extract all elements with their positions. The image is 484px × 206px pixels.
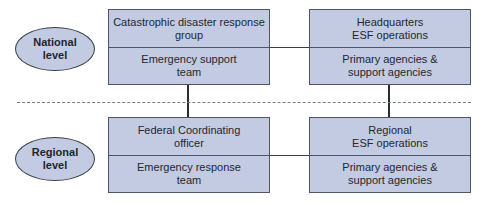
right-vertical-connector bbox=[388, 84, 390, 118]
regional-horizontal-connector bbox=[270, 155, 310, 156]
left-vertical-connector bbox=[187, 84, 189, 118]
hq-esf-line1: Headquarters bbox=[352, 16, 428, 29]
national-primary-support-agencies: Primary agencies & support agencies bbox=[310, 48, 470, 84]
regional-right-box: Regional ESF operations Primary agencies… bbox=[309, 117, 471, 193]
level-divider-dashed-line bbox=[17, 102, 471, 103]
national-right-box: Headquarters ESF operations Primary agen… bbox=[309, 9, 471, 85]
catastrophic-disaster-response-group: Catastrophic disaster response group bbox=[109, 10, 269, 48]
national-left-box: Catastrophic disaster response group Eme… bbox=[108, 9, 270, 85]
national-level-ellipse: National level bbox=[15, 27, 95, 71]
regional-level-ellipse: Regional level bbox=[15, 137, 95, 181]
national-level-label-line2: level bbox=[33, 49, 76, 62]
federal-coordinating-officer: Federal Coordinating officer bbox=[109, 118, 269, 156]
regional-level-label-line1: Regional bbox=[32, 146, 78, 159]
national-level-label-line1: National bbox=[33, 36, 76, 49]
regional-primary-support-agencies: Primary agencies & support agencies bbox=[310, 156, 470, 192]
regional-esf-line1: Regional bbox=[352, 124, 428, 137]
regional-left-box: Federal Coordinating officer Emergency r… bbox=[108, 117, 270, 193]
national-horizontal-connector bbox=[270, 47, 310, 48]
regional-esf-line2: ESF operations bbox=[352, 137, 428, 150]
regional-level-label-line2: level bbox=[32, 159, 78, 172]
emergency-support-team: Emergency support team bbox=[109, 48, 269, 84]
emergency-response-team: Emergency response team bbox=[109, 156, 269, 192]
regional-esf-operations: Regional ESF operations bbox=[310, 118, 470, 156]
headquarters-esf-operations: Headquarters ESF operations bbox=[310, 10, 470, 48]
hq-esf-line2: ESF operations bbox=[352, 29, 428, 42]
